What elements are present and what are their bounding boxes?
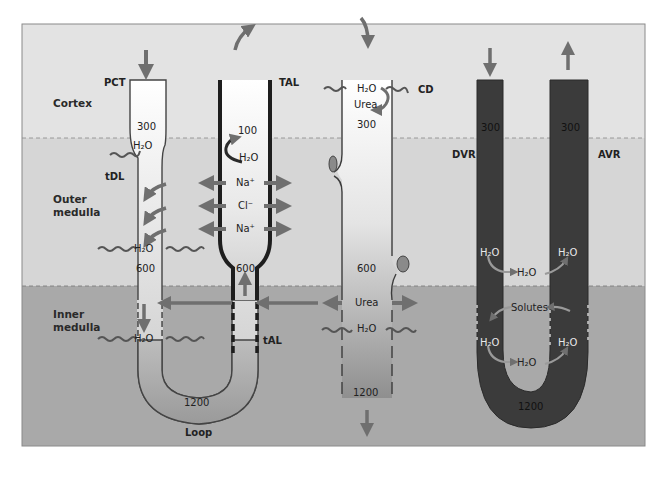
dvr-osmolality: 300 bbox=[481, 123, 500, 133]
interstitial-h2o-label: H₂O bbox=[517, 358, 536, 368]
cd-h2o-mid-label: H₂O bbox=[357, 324, 376, 334]
ion-na-label: Na⁺ bbox=[236, 224, 255, 234]
region-label-inner-medulla: Inner medulla bbox=[53, 308, 100, 334]
dvr-h2o-label: H₂O bbox=[480, 248, 499, 258]
loop-label: Loop bbox=[185, 428, 212, 438]
tal-osmolality-bottom: 600 bbox=[236, 264, 255, 274]
tal-thin-label: tAL bbox=[263, 336, 282, 346]
vasa-recta-osmolality: 1200 bbox=[518, 402, 543, 412]
tal-osmolality-top: 100 bbox=[238, 126, 257, 136]
pct-label: PCT bbox=[104, 78, 126, 88]
avr-label: AVR bbox=[598, 150, 621, 160]
tdl-h2o-label: H₂O bbox=[134, 244, 153, 254]
channel-icon bbox=[397, 256, 409, 272]
pct-osmolality: 300 bbox=[137, 122, 156, 132]
tal-h2o-label: H₂O bbox=[239, 153, 258, 163]
cd-osmolality-bottom: 1200 bbox=[353, 388, 378, 398]
interstitial-h2o-label: H₂O bbox=[517, 268, 536, 278]
region-label-outer-medulla: Outer medulla bbox=[53, 193, 100, 219]
tal-label: TAL bbox=[279, 78, 299, 88]
solutes-label: Solutes bbox=[511, 303, 548, 313]
ion-na-label: Na⁺ bbox=[236, 178, 255, 188]
countercurrent-diagram: Cortex Outer medulla Inner medulla PCT t… bbox=[0, 0, 664, 478]
channel-icon bbox=[329, 156, 337, 172]
diagram-canvas bbox=[0, 0, 664, 478]
loop-osmolality: 1200 bbox=[184, 398, 209, 408]
avr-h2o-label: H₂O bbox=[558, 338, 577, 348]
tdl-osmolality: 600 bbox=[136, 264, 155, 274]
tdl-h2o-label: H₂O bbox=[133, 141, 152, 151]
dvr-h2o-label: H₂O bbox=[480, 338, 499, 348]
dvr-label: DVR bbox=[452, 150, 476, 160]
avr-h2o-label: H₂O bbox=[558, 248, 577, 258]
cd-label: CD bbox=[418, 85, 434, 95]
cd-urea-mid-label: Urea bbox=[355, 298, 379, 308]
ion-cl-label: Cl⁻ bbox=[238, 201, 253, 211]
cd-osmolality-mid: 600 bbox=[357, 264, 376, 274]
tdl-h2o-label: H₂O bbox=[134, 334, 153, 344]
tdl-label: tDL bbox=[105, 172, 124, 182]
cd-osmolality-top: 300 bbox=[357, 120, 376, 130]
cd-h2o-label: H₂O bbox=[357, 84, 376, 94]
region-label-cortex: Cortex bbox=[53, 97, 92, 110]
cd-urea-label: Urea bbox=[354, 100, 378, 110]
avr-osmolality: 300 bbox=[561, 123, 580, 133]
